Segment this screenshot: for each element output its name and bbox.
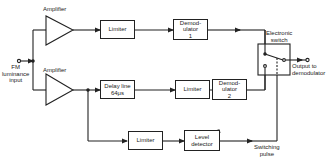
delay-line-block: Delay line 64μs — [100, 80, 135, 99]
amplifier-bottom-icon — [46, 74, 73, 105]
amplifier-bottom-label: Amplifier — [43, 67, 66, 74]
amplifier-top-icon — [46, 16, 73, 45]
switching-pulse-label: Switching pulse — [254, 144, 280, 157]
demodulator-1-block: Demod- ulator 1 — [173, 19, 208, 40]
limiter-mid-label: Limiter — [183, 86, 201, 93]
output-terminal-icon — [306, 58, 309, 61]
demodulator-2-block: Demod- ulator 2 — [212, 79, 247, 100]
output-label: Output to demodulator — [292, 63, 325, 76]
level-detector-label: Level detector — [191, 134, 213, 147]
demodulator-2-label: Demod- ulator 2 — [219, 80, 240, 100]
limiter-top-label: Limiter — [108, 26, 126, 33]
limiter-bottom-block: Limiter — [128, 131, 163, 150]
amplifier-top-label: Amplifier — [43, 6, 66, 13]
input-terminal-icon — [17, 59, 20, 62]
limiter-top-block: Limiter — [100, 20, 135, 39]
delay-line-label: Delay line 64μs — [104, 83, 130, 96]
limiter-bottom-label: Limiter — [136, 137, 154, 144]
block-diagram-wiring — [0, 0, 329, 161]
demodulator-1-label: Demod- ulator 1 — [180, 20, 201, 40]
level-detector-block: Level detector — [184, 130, 220, 151]
limiter-mid-block: Limiter — [175, 80, 210, 99]
electronic-switch-label: Electronic switch — [266, 30, 292, 43]
input-label: FM luminance input — [2, 64, 29, 84]
